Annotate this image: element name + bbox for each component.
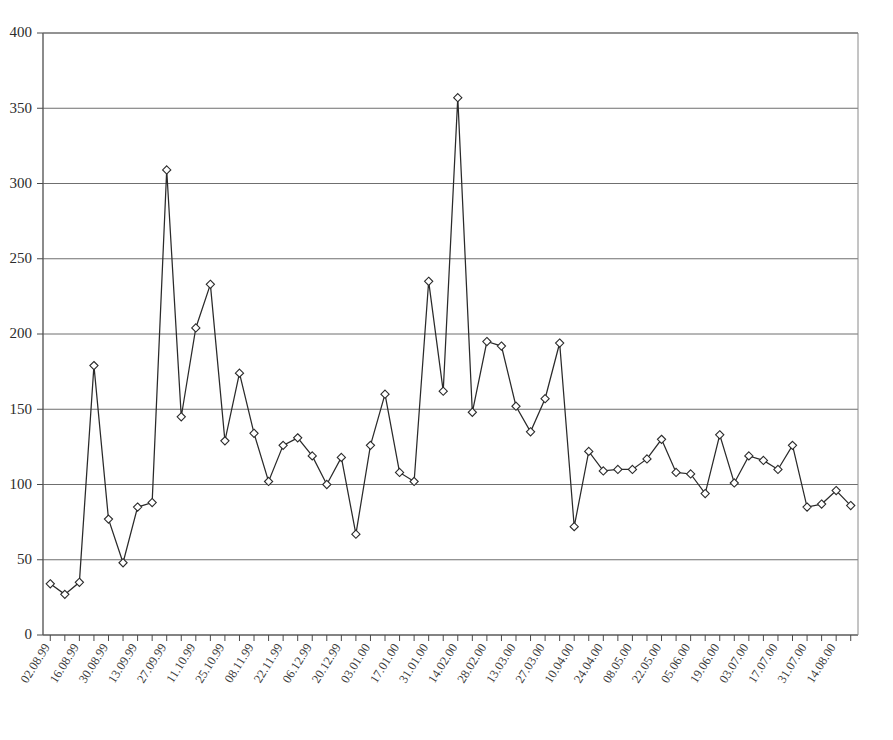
data-point-marker (614, 465, 622, 473)
y-axis-ticks: 050100150200250300350400 (10, 24, 44, 642)
y-tick-label: 100 (10, 476, 33, 492)
data-point-marker (454, 94, 462, 102)
data-point-markers (46, 94, 855, 599)
chart-canvas: 050100150200250300350400 02.08.9916.08.9… (0, 0, 893, 740)
line-chart-figure: 050100150200250300350400 02.08.9916.08.9… (0, 0, 893, 740)
data-point-marker (279, 441, 287, 449)
data-point-marker (163, 166, 171, 174)
data-point-marker (526, 428, 534, 436)
data-point-marker (439, 387, 447, 395)
data-point-marker (803, 503, 811, 511)
data-point-marker (381, 390, 389, 398)
y-tick-label: 0 (25, 626, 33, 642)
data-point-marker (177, 413, 185, 421)
data-point-marker (672, 468, 680, 476)
data-point-marker (46, 580, 54, 588)
data-point-marker (148, 498, 156, 506)
x-axis-ticks (50, 635, 850, 641)
data-point-marker (206, 280, 214, 288)
data-point-marker (352, 530, 360, 538)
y-tick-label: 300 (10, 175, 33, 191)
data-point-marker (759, 456, 767, 464)
data-point-marker (541, 395, 549, 403)
data-point-marker (628, 465, 636, 473)
data-point-marker (337, 453, 345, 461)
data-point-marker (425, 277, 433, 285)
data-point-marker (395, 468, 403, 476)
data-point-marker (221, 437, 229, 445)
data-point-marker (90, 362, 98, 370)
y-tick-label: 200 (10, 325, 33, 341)
data-point-marker (250, 429, 258, 437)
x-axis-labels: 02.08.9916.08.9930.08.9913.09.9927.09.99… (18, 641, 839, 686)
y-tick-label: 400 (10, 24, 33, 40)
y-tick-label: 150 (10, 401, 33, 417)
data-point-marker (716, 431, 724, 439)
data-point-marker (774, 465, 782, 473)
x-tick-label: 14.08.00 (804, 641, 839, 686)
y-tick-label: 50 (17, 551, 32, 567)
data-point-marker (730, 479, 738, 487)
data-point-marker (104, 515, 112, 523)
data-series-line (50, 98, 850, 595)
y-tick-label: 350 (10, 100, 33, 116)
y-tick-label: 250 (10, 250, 33, 266)
data-point-marker (497, 342, 505, 350)
data-point-marker (556, 339, 564, 347)
data-point-marker (745, 452, 753, 460)
data-point-marker (192, 324, 200, 332)
data-point-marker (235, 369, 243, 377)
data-point-marker (323, 480, 331, 488)
data-point-marker (366, 441, 374, 449)
data-point-marker (788, 441, 796, 449)
data-point-marker (570, 523, 578, 531)
series-polyline (50, 98, 850, 595)
data-point-marker (133, 503, 141, 511)
data-point-marker (483, 337, 491, 345)
